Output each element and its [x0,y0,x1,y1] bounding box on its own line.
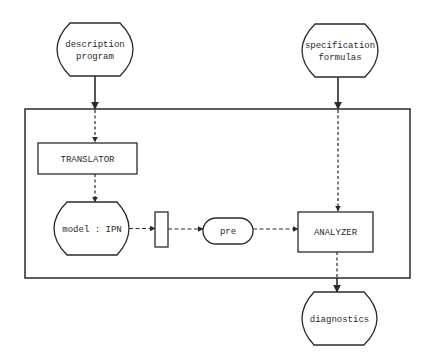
translator-label: TRANSLATOR [60,155,115,165]
diagnostics-node: diagnostics [302,292,377,345]
specification-formulas-line1: specification [305,41,375,51]
model-ipn-node: model : IPN [54,202,129,255]
specification-formulas-line2: formulas [318,53,361,63]
specification-formulas-node: specification formulas [302,24,378,77]
analyzer-label: ANALYZER [314,228,358,238]
description-program-line2: program [76,52,114,62]
translator-node: TRANSLATOR [38,143,137,174]
description-program-line1: description [65,40,124,50]
description-program-node: description program [57,23,133,76]
diagram-canvas: description program specification formul… [0,0,431,362]
pre-node: pre [203,218,253,244]
analyzer-node: ANALYZER [298,212,373,252]
transition-bar [155,212,168,247]
pre-label: pre [220,227,236,237]
model-ipn-label: model : IPN [62,225,121,235]
diagnostics-label: diagnostics [310,315,369,325]
